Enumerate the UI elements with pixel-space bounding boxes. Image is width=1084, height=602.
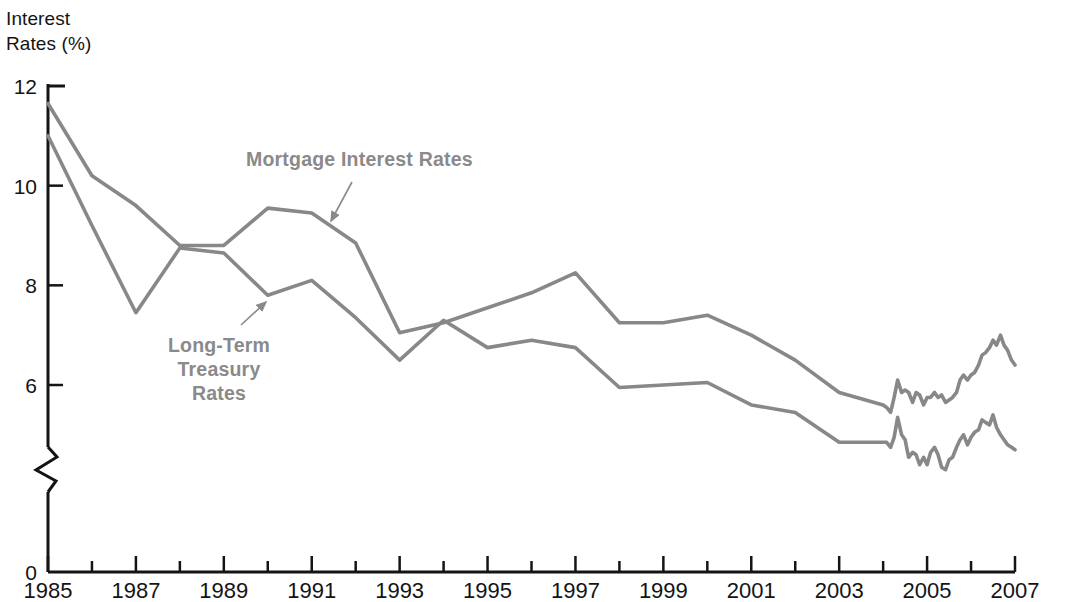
annotation-treasury-label: Long-TermTreasuryRates: [168, 334, 270, 404]
x-tick-label-1995: 1995: [463, 578, 512, 602]
interest-rates-chart: InterestRates (%) 1210860198519871989199…: [0, 0, 1084, 602]
chart-canvas: 1210860198519871989199119931995199719992…: [0, 0, 1084, 602]
y-tick-label-10: 10: [14, 175, 37, 198]
y-tick-label-6: 6: [25, 374, 37, 397]
annotation-layer: Mortgage Interest RatesLong-TermTreasury…: [168, 148, 473, 404]
x-tick-label-1987: 1987: [111, 578, 160, 602]
series-line-treasury: [48, 136, 1015, 470]
y-tick-label-12: 12: [14, 75, 37, 98]
annotation-mortgage-label: Mortgage Interest Rates: [246, 148, 473, 170]
x-tick-label-1993: 1993: [375, 578, 424, 602]
x-tick-label-2001: 2001: [727, 578, 776, 602]
series-layer: [48, 103, 1015, 469]
y-axis-break-marker: [36, 447, 57, 492]
annotation-treasury-arrow: [241, 302, 266, 325]
x-tick-label-2007: 2007: [991, 578, 1040, 602]
x-tick-label-1997: 1997: [551, 578, 600, 602]
annotation-mortgage-arrow: [331, 182, 352, 221]
x-tick-label-1999: 1999: [639, 578, 688, 602]
x-tick-label-1985: 1985: [24, 578, 73, 602]
x-tick-label-2003: 2003: [815, 578, 864, 602]
annotation-treasury-line-3: Rates: [192, 382, 246, 404]
annotation-treasury-line-1: Long-Term: [168, 334, 270, 356]
y-tick-label-8: 8: [25, 274, 37, 297]
x-tick-label-2005: 2005: [903, 578, 952, 602]
x-tick-label-1989: 1989: [199, 578, 248, 602]
annotation-treasury-line-2: Treasury: [178, 358, 261, 380]
x-tick-label-1991: 1991: [287, 578, 336, 602]
